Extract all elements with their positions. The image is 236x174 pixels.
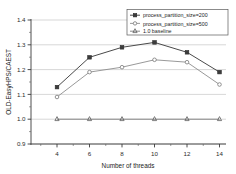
data-point xyxy=(55,85,59,89)
x-tick-label: 6 xyxy=(88,150,92,157)
data-point xyxy=(218,83,222,87)
y-tick-label: 1.1 xyxy=(17,91,26,98)
x-tick-label: 10 xyxy=(151,150,158,157)
legend-marker-circle xyxy=(133,22,136,25)
legend[interactable]: process_partition_size=200 process_parti… xyxy=(127,10,228,36)
legend-label: process_partition_size=500 xyxy=(143,21,208,27)
y-tick-label: 1.2 xyxy=(17,66,26,73)
data-point xyxy=(185,51,189,55)
y-axis-title: OLD-EasyHPS/CAEST xyxy=(5,49,13,115)
x-tick-label: 14 xyxy=(216,150,223,157)
y-tick-label: 1.3 xyxy=(17,41,26,48)
data-point xyxy=(153,41,157,45)
y-tick-label: 1.4 xyxy=(17,16,26,23)
data-point xyxy=(88,70,92,74)
x-axis-title: Number of threads xyxy=(102,162,155,169)
legend-label: 1.0 baseline xyxy=(143,28,172,34)
x-tick-label: 8 xyxy=(120,150,124,157)
x-tick-label: 12 xyxy=(184,150,191,157)
legend-label: process_partition_size=200 xyxy=(143,12,208,18)
chart-figure: 1.4 1.3 1.2 1.1 1.0 0.9 4 6 8 10 12 14 N… xyxy=(0,0,236,174)
legend-marker-square xyxy=(133,14,136,17)
line-chart: 1.4 1.3 1.2 1.1 1.0 0.9 4 6 8 10 12 14 N… xyxy=(0,0,236,174)
y-tick-label: 1.0 xyxy=(17,115,26,122)
y-tick-label: 0.9 xyxy=(17,140,26,147)
data-point xyxy=(185,60,189,64)
data-point xyxy=(153,58,157,62)
data-point xyxy=(120,65,124,69)
data-point xyxy=(55,95,59,99)
data-point xyxy=(218,70,222,74)
x-tick-label: 4 xyxy=(55,150,59,157)
data-point xyxy=(88,56,92,60)
data-point xyxy=(120,46,124,50)
